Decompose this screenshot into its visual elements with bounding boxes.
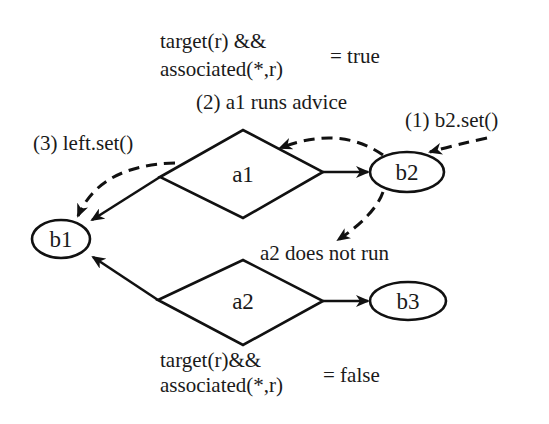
- a2-does-not-run-label: a2 does not run: [260, 241, 389, 265]
- edge-a2-b1: [93, 257, 158, 300]
- node-a1: a1: [160, 130, 323, 218]
- step3-label: (3) left.set(): [33, 131, 133, 155]
- node-a2-label: a2: [232, 289, 254, 314]
- node-b3: b3: [370, 282, 446, 320]
- node-b3-label: b3: [397, 289, 420, 314]
- flow-step1-arrow: [430, 138, 487, 152]
- top-condition-line1: target(r) &&: [160, 29, 266, 53]
- diagram-canvas: b1 a1 b2 a2 b3 target(r) && associated(*…: [0, 0, 549, 424]
- bottom-condition-line1: target(r)&&: [160, 348, 261, 372]
- node-b2: b2: [370, 152, 444, 192]
- node-b1-label: b1: [50, 227, 73, 252]
- step1-label: (1) b2.set(): [405, 108, 498, 132]
- flow-step3-arrow: [78, 163, 175, 216]
- node-a2: a2: [158, 260, 323, 345]
- top-condition-result: = true: [330, 44, 380, 68]
- node-a1-label: a1: [232, 162, 254, 187]
- bottom-condition-result: = false: [323, 363, 380, 387]
- node-b1: b1: [32, 220, 90, 258]
- top-condition-line2: associated(*,r): [160, 57, 283, 81]
- step2-label: (2) a1 runs advice: [196, 90, 347, 114]
- node-b2-label: b2: [396, 160, 419, 185]
- bottom-condition-line2: associated(*,r): [160, 373, 283, 397]
- flow-a2-not-run-arrow: [338, 192, 383, 240]
- flow-step2-arrow: [280, 138, 383, 155]
